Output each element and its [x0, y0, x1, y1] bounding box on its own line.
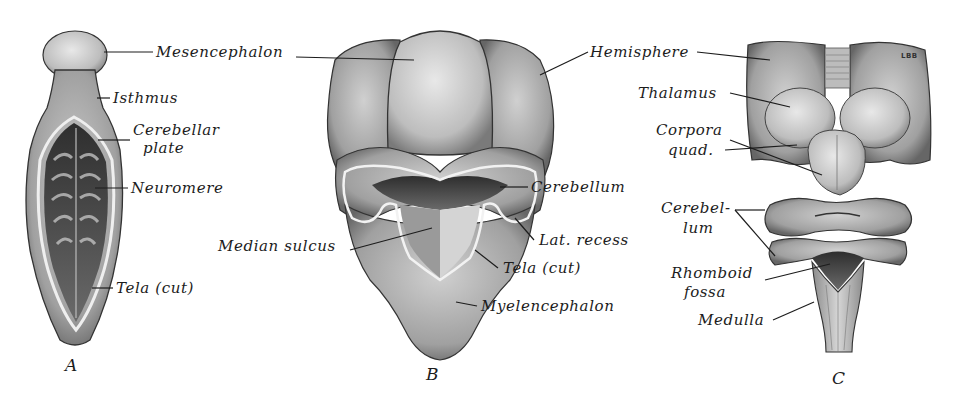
label-cerebellar-plate-line1: Cerebellar: [133, 122, 220, 138]
illustration-canvas: [0, 0, 963, 409]
label-corpora-quad-line2: quad.: [668, 142, 714, 158]
label-corpora-quad-line1: Corpora: [656, 122, 723, 138]
label-tela-cut-b: Tela (cut): [503, 260, 581, 276]
label-medulla: Medulla: [698, 312, 764, 328]
figure-letter-b: B: [426, 364, 439, 384]
artist-monogram-mark: LBB: [901, 52, 918, 60]
brain-development-diagram: Mesencephalon Isthmus Cerebellar plate N…: [0, 0, 963, 409]
figure-c-drawing: [747, 42, 931, 353]
label-neuromere: Neuromere: [131, 180, 223, 196]
label-median-sulcus: Median sulcus: [218, 238, 336, 254]
label-cerebellum-c-line2: lum: [683, 220, 713, 236]
label-hemisphere: Hemisphere: [590, 44, 689, 60]
label-cerebellar-plate-line2: plate: [143, 140, 184, 156]
label-thalamus: Thalamus: [638, 85, 717, 101]
label-tela-cut-a: Tela (cut): [116, 280, 194, 296]
label-cerebellum-c-line1: Cerebel-: [661, 200, 731, 216]
label-mesencephalon: Mesencephalon: [156, 44, 283, 60]
label-lat-recess: Lat. recess: [539, 232, 629, 248]
label-myelencephalon: Myelencephalon: [481, 298, 614, 314]
label-rhomboid-fossa-line2: fossa: [684, 284, 726, 300]
label-isthmus: Isthmus: [113, 90, 178, 106]
label-cerebellum-b: Cerebellum: [531, 179, 625, 195]
figure-letter-a: A: [65, 355, 77, 375]
label-rhomboid-fossa-line1: Rhomboid: [671, 265, 753, 281]
figure-letter-c: C: [832, 368, 845, 388]
